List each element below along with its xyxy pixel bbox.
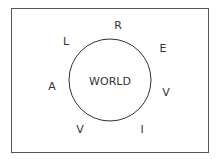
letter-v-left: V <box>76 124 84 135</box>
letter-l: L <box>63 36 69 47</box>
letter-r: R <box>114 20 122 31</box>
letter-a: A <box>48 81 56 92</box>
letter-i: I <box>140 124 143 135</box>
center-label: WORLD <box>89 76 131 87</box>
letter-v-right: V <box>162 87 170 98</box>
letter-e: E <box>160 43 167 54</box>
